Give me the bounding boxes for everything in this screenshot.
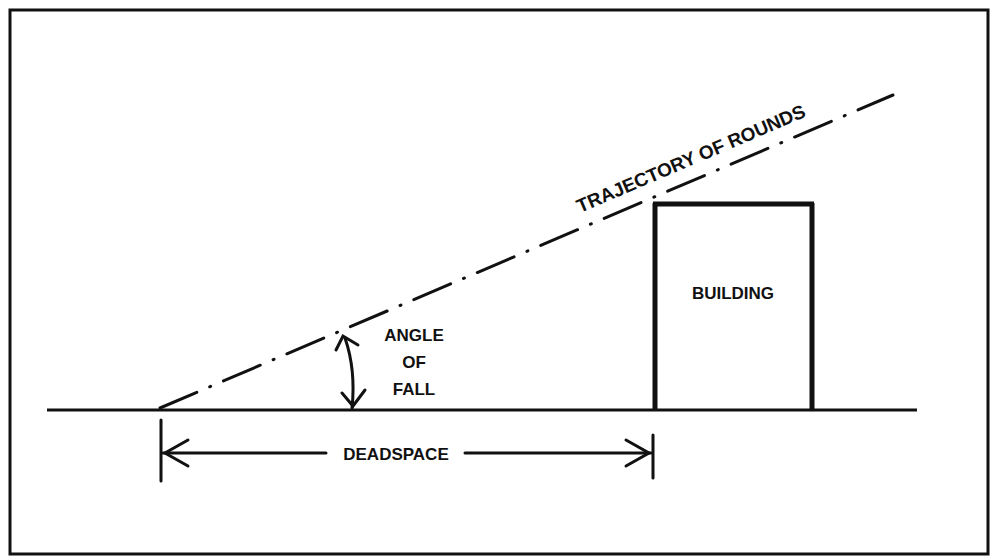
angle-label-line1: ANGLE: [384, 326, 444, 345]
deadspace-label: DEADSPACE: [343, 445, 448, 464]
building-label: BUILDING: [692, 284, 774, 303]
angle-label-line3: FALL: [393, 380, 436, 399]
angle-of-fall-arrow-icon: [336, 336, 365, 408]
deadspace-diagram: TRAJECTORY OF ROUNDS BUILDING ANGLE OF F…: [0, 0, 993, 560]
angle-label-line2: OF: [402, 353, 426, 372]
trajectory-label: TRAJECTORY OF ROUNDS: [573, 101, 808, 217]
building: [653, 203, 814, 410]
trajectory-line: [160, 95, 893, 408]
diagram-frame: [10, 10, 988, 554]
